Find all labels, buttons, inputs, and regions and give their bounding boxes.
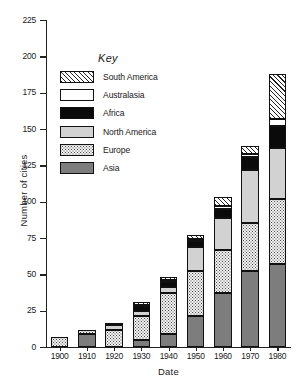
chart-legend: Key South AmericaAustralasiaAfricaNorth … bbox=[60, 52, 190, 179]
legend-label: Australasia bbox=[103, 90, 144, 100]
segment-1910-europe[interactable] bbox=[78, 330, 96, 334]
segment-1970-south-america[interactable] bbox=[241, 146, 259, 153]
x-tick-label-1910: 1910 bbox=[72, 352, 102, 361]
y-tick-0 bbox=[40, 347, 46, 348]
x-tick-label-1980: 1980 bbox=[262, 352, 292, 361]
legend-label: Europe bbox=[103, 145, 130, 155]
bar-1910[interactable] bbox=[78, 330, 96, 347]
segment-1980-africa[interactable] bbox=[269, 126, 287, 148]
segment-1950-asia[interactable] bbox=[187, 316, 205, 347]
segment-1940-north-america[interactable] bbox=[160, 287, 178, 293]
bar-1930[interactable] bbox=[133, 302, 151, 347]
x-tick-label-1930: 1930 bbox=[126, 352, 156, 361]
segment-1960-australasia[interactable] bbox=[214, 206, 232, 209]
bar-1960[interactable] bbox=[214, 197, 232, 347]
segment-1920-africa[interactable] bbox=[105, 323, 123, 325]
segment-1960-europe[interactable] bbox=[214, 250, 232, 294]
bar-1900[interactable] bbox=[51, 337, 69, 347]
segment-1940-south-america[interactable] bbox=[160, 277, 178, 280]
x-axis-label: Date bbox=[46, 366, 291, 377]
y-tick-75 bbox=[40, 238, 46, 239]
legend-label: South America bbox=[103, 72, 158, 82]
x-tick-label-1960: 1960 bbox=[208, 352, 238, 361]
y-tick-25 bbox=[40, 311, 46, 312]
segment-1960-north-america[interactable] bbox=[214, 218, 232, 250]
segment-1950-north-america[interactable] bbox=[187, 247, 205, 272]
segment-1970-australasia[interactable] bbox=[241, 154, 259, 157]
segment-1940-europe[interactable] bbox=[160, 293, 178, 334]
segment-1920-europe[interactable] bbox=[105, 330, 123, 347]
legend-label: Asia bbox=[103, 163, 119, 173]
y-tick-125 bbox=[40, 165, 46, 166]
x-tick-label-1900: 1900 bbox=[45, 352, 75, 361]
bar-1950[interactable] bbox=[187, 235, 205, 347]
legend-swatch-north-america bbox=[60, 126, 94, 138]
legend-title: Key bbox=[98, 52, 190, 64]
segment-1910-asia[interactable] bbox=[78, 334, 96, 347]
legend-swatch-south-america bbox=[60, 71, 94, 83]
x-tick-label-1920: 1920 bbox=[99, 352, 129, 361]
y-tick-150 bbox=[40, 129, 46, 130]
segment-1980-south-america[interactable] bbox=[269, 74, 287, 119]
segment-1950-europe[interactable] bbox=[187, 271, 205, 316]
legend-item-australasia: Australasia bbox=[60, 87, 190, 102]
segment-1930-africa[interactable] bbox=[133, 306, 151, 310]
legend-item-europe: Europe bbox=[60, 143, 190, 158]
segment-1940-africa[interactable] bbox=[160, 282, 178, 288]
y-tick-label-50: 50 bbox=[0, 270, 36, 279]
segment-1950-africa[interactable] bbox=[187, 241, 205, 247]
segment-1900-europe[interactable] bbox=[51, 337, 69, 347]
legend-item-asia: Asia bbox=[60, 161, 190, 176]
segment-1930-north-america[interactable] bbox=[133, 311, 151, 317]
y-tick-50 bbox=[40, 274, 46, 275]
y-tick-label-25: 25 bbox=[0, 306, 36, 315]
segment-1970-north-america[interactable] bbox=[241, 170, 259, 224]
bar-1940[interactable] bbox=[160, 277, 178, 347]
y-axis-label: Number of cities bbox=[18, 121, 29, 261]
legend-label: Africa bbox=[103, 108, 124, 118]
segment-1920-north-america[interactable] bbox=[105, 325, 123, 329]
legend-item-south-america: South America bbox=[60, 69, 190, 84]
segment-1980-australasia[interactable] bbox=[269, 119, 287, 126]
segment-1960-asia[interactable] bbox=[214, 293, 232, 347]
segment-1980-north-america[interactable] bbox=[269, 148, 287, 199]
y-tick-175 bbox=[40, 93, 46, 94]
y-tick-label-225: 225 bbox=[0, 16, 36, 25]
y-tick-225 bbox=[40, 20, 46, 21]
legend-swatch-africa bbox=[60, 107, 94, 119]
y-axis-line bbox=[46, 20, 47, 348]
segment-1960-africa[interactable] bbox=[214, 209, 232, 218]
segment-1970-asia[interactable] bbox=[241, 271, 259, 347]
stacked-bar-chart: 0255075100125150175200225 19001910192019… bbox=[0, 0, 299, 383]
segment-1960-south-america[interactable] bbox=[214, 197, 232, 206]
legend-label: North America bbox=[103, 127, 156, 137]
legend-swatch-asia bbox=[60, 162, 94, 174]
y-tick-label-200: 200 bbox=[0, 52, 36, 61]
bar-1920[interactable] bbox=[105, 324, 123, 347]
y-tick-label-175: 175 bbox=[0, 88, 36, 97]
legend-swatch-europe bbox=[60, 144, 94, 156]
legend-item-africa: Africa bbox=[60, 106, 190, 121]
segment-1930-europe[interactable] bbox=[133, 316, 151, 339]
segment-1930-south-america[interactable] bbox=[133, 302, 151, 305]
segment-1970-africa[interactable] bbox=[241, 157, 259, 170]
x-tick-label-1940: 1940 bbox=[154, 352, 184, 361]
segment-1930-asia[interactable] bbox=[133, 340, 151, 347]
segment-1940-asia[interactable] bbox=[160, 334, 178, 347]
segment-1980-asia[interactable] bbox=[269, 264, 287, 347]
y-tick-200 bbox=[40, 56, 46, 57]
segment-1970-europe[interactable] bbox=[241, 223, 259, 271]
segment-1980-europe[interactable] bbox=[269, 199, 287, 264]
legend-rows: South AmericaAustralasiaAfricaNorth Amer… bbox=[60, 69, 190, 176]
legend-swatch-australasia bbox=[60, 89, 94, 101]
legend-item-north-america: North America bbox=[60, 124, 190, 139]
x-tick-label-1950: 1950 bbox=[181, 352, 211, 361]
segment-1950-south-america[interactable] bbox=[187, 235, 205, 239]
bar-1970[interactable] bbox=[241, 146, 259, 347]
x-tick-label-1970: 1970 bbox=[235, 352, 265, 361]
y-tick-label-0: 0 bbox=[0, 343, 36, 352]
bar-1980[interactable] bbox=[269, 74, 287, 347]
y-tick-100 bbox=[40, 202, 46, 203]
